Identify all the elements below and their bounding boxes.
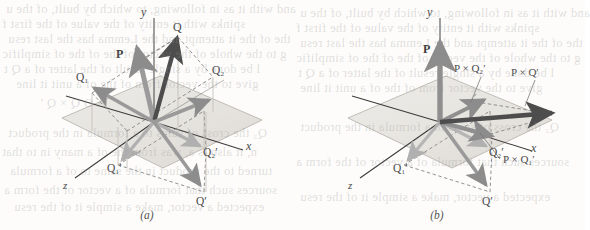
label-Q2prime: Q₂′	[203, 146, 218, 158]
panel-a: P Q Q₁ Q₂ Q₁′ Q₂′ Q′ y x z (a)	[62, 5, 262, 222]
axis-label-y: y	[140, 5, 147, 19]
label-Q1prime: Q₁′	[393, 162, 408, 174]
caption-a: (a)	[140, 209, 154, 222]
label-Q: Q	[173, 20, 182, 34]
label-PxQ1prime: P × Q₁′	[503, 153, 535, 165]
axis-label-x: x	[245, 139, 252, 153]
label-Qprime: Q′	[482, 195, 493, 207]
label-PxQ2prime: P × Q₂′	[454, 62, 486, 74]
label-P: P	[423, 42, 430, 56]
label-PxQprime: P × Q′	[511, 66, 539, 78]
axis-label-y: y	[426, 5, 433, 19]
axis-label-z: z	[347, 179, 353, 191]
caption-b: (b)	[430, 209, 444, 222]
label-Qprime: Q′	[196, 195, 207, 207]
axis-label-x: x	[530, 141, 537, 155]
label-Q2prime: Q₂′	[489, 146, 504, 158]
panel-b: P Q₁′ Q₂′ Q′ P × Q₂′ P × Q′ P × Q₁′ y x …	[347, 5, 552, 222]
label-P: P	[116, 47, 123, 61]
label-Q2: Q₂	[212, 64, 224, 76]
label-Q1prime: Q₁′	[107, 162, 122, 174]
leader-PxQprime	[525, 80, 535, 106]
label-Q1: Q₁	[76, 71, 88, 83]
axis-label-z: z	[62, 179, 68, 191]
